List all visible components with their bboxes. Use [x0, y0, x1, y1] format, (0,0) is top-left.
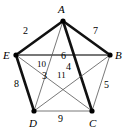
edge-weight-cd: 9	[58, 114, 63, 124]
edge-weight-de: 8	[14, 79, 19, 89]
graph-vertex-c	[89, 108, 94, 113]
vertex-label-d: D	[29, 118, 37, 129]
weighted-graph-figure: ABCDE 275986104311	[0, 0, 126, 133]
graph-vertex-e	[13, 52, 18, 57]
edge-weight-bc: 5	[104, 80, 109, 90]
edge-weight-ac: 4	[66, 62, 71, 72]
graph-vertex-b	[107, 52, 112, 57]
edge-weight-eb: 6	[61, 51, 66, 61]
vertex-label-e: E	[3, 50, 10, 61]
edge-weight-db: 11	[57, 71, 66, 80]
graph-canvas	[0, 0, 126, 133]
graph-edge-ab	[63, 21, 110, 55]
vertex-label-a: A	[58, 4, 65, 15]
edge-weight-ec: 3	[42, 71, 47, 81]
edge-weight-ad: 10	[37, 60, 46, 69]
graph-vertex-d	[31, 108, 36, 113]
edge-weight-ae: 2	[23, 26, 28, 36]
vertex-label-b: B	[115, 50, 122, 61]
edge-weight-ab: 7	[93, 26, 98, 36]
graph-edge-ec	[16, 55, 92, 111]
vertex-label-c: C	[89, 118, 96, 129]
graph-vertex-a	[60, 18, 65, 23]
